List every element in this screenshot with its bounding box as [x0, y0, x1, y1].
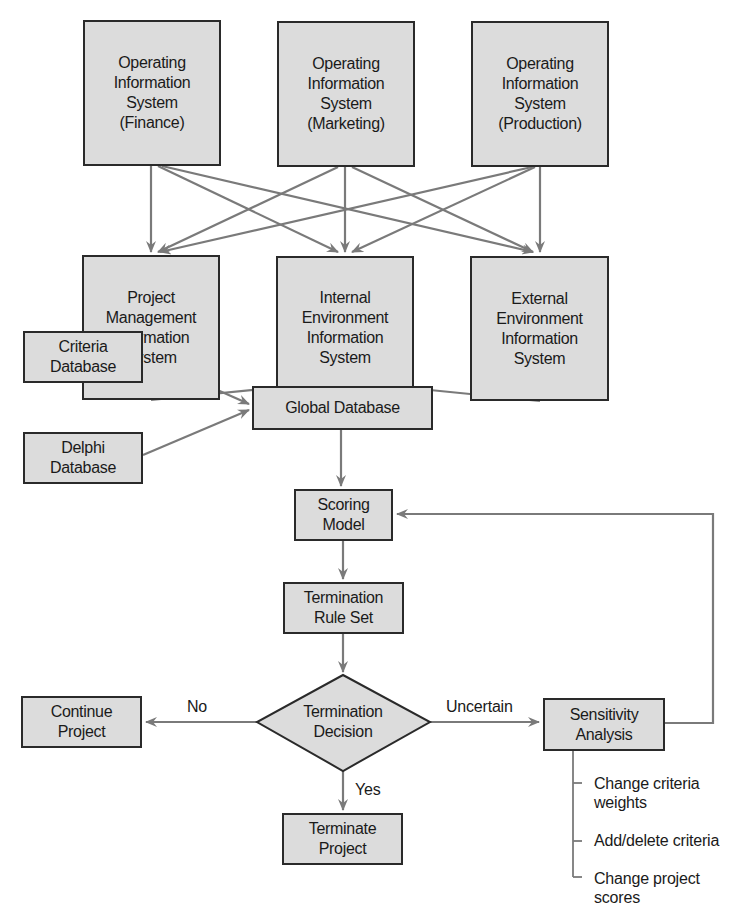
edge-label-no: No [187, 697, 207, 716]
edge-label-uncertain: Uncertain [446, 697, 513, 716]
sensitivity-option-change-scores: Change project scores [594, 869, 700, 907]
node-termination-rule-set: Termination Rule Set [283, 582, 404, 634]
node-sensitivity-analysis: Sensitivity Analysis [543, 698, 665, 751]
sensitivity-option-change-weights: Change criteria weights [594, 774, 700, 812]
node-scoring-model: Scoring Model [294, 489, 393, 541]
arrow-delphi-to-global [143, 410, 249, 455]
edge-label-yes: Yes [355, 780, 381, 799]
node-external-env-is: External Environment Information System [470, 256, 609, 401]
node-ois-finance: Operating Information System (Finance) [83, 20, 221, 166]
node-terminate-project: Terminate Project [282, 813, 403, 865]
sensitivity-option-add-delete-criteria: Add/delete criteria [594, 831, 719, 850]
node-criteria-database: Criteria Database [23, 331, 143, 383]
arrow-sensitivity-feedback-to-scoring [397, 514, 713, 723]
sensitivity-options-bracket [573, 751, 582, 877]
node-internal-env-is: Internal Environment Information System [276, 256, 414, 400]
node-ois-marketing: Operating Information System (Marketing) [277, 21, 415, 167]
node-continue-project: Continue Project [21, 696, 142, 748]
node-termination-decision-label: Termination Decision [273, 702, 413, 742]
node-global-database: Global Database [252, 386, 433, 430]
node-ois-production: Operating Information System (Production… [471, 21, 609, 167]
node-delphi-database: Delphi Database [23, 432, 143, 484]
